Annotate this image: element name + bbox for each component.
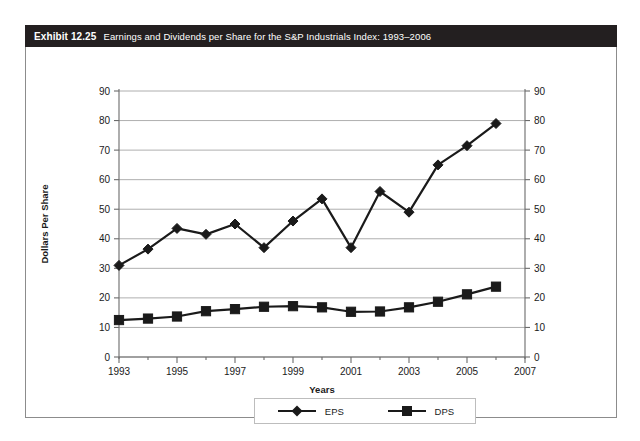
data-point-dps (317, 303, 326, 312)
svg-text:10: 10 (99, 322, 111, 333)
data-point-dps (143, 314, 152, 323)
svg-text:2005: 2005 (456, 366, 479, 377)
svg-text:70: 70 (534, 145, 546, 156)
svg-text:30: 30 (534, 263, 546, 274)
svg-text:60: 60 (534, 174, 546, 185)
data-point-dps (288, 302, 297, 311)
legend-entry-eps: EPS (276, 404, 344, 418)
svg-text:1993: 1993 (108, 366, 131, 377)
svg-text:70: 70 (99, 145, 111, 156)
data-point-dps (491, 282, 500, 291)
svg-text:1997: 1997 (224, 366, 247, 377)
exhibit-title-bar: Exhibit 12.25 Earnings and Dividends per… (25, 25, 617, 47)
legend-marker-square-icon (386, 404, 428, 418)
chart-plot-area: 0102030405060708090010203040506070809019… (26, 47, 618, 418)
svg-text:1995: 1995 (166, 366, 189, 377)
series-line-eps (119, 124, 496, 266)
data-point-dps (462, 290, 471, 299)
svg-text:1999: 1999 (282, 366, 305, 377)
data-point-dps (201, 307, 210, 316)
svg-text:50: 50 (99, 204, 111, 215)
svg-text:10: 10 (534, 322, 546, 333)
legend-entry-dps: DPS (386, 404, 455, 418)
line-chart: 0102030405060708090010203040506070809019… (26, 47, 618, 418)
chart-frame: 0102030405060708090010203040506070809019… (25, 47, 617, 418)
data-point-eps (201, 229, 211, 239)
svg-text:2007: 2007 (514, 366, 537, 377)
svg-text:20: 20 (99, 292, 111, 303)
data-point-dps (375, 307, 384, 316)
legend-marker-diamond-icon (276, 404, 318, 418)
exhibit-container: Exhibit 12.25 Earnings and Dividends per… (25, 25, 617, 418)
svg-text:60: 60 (99, 174, 111, 185)
svg-text:30: 30 (99, 263, 111, 274)
data-point-eps (346, 243, 356, 253)
data-point-dps (346, 307, 355, 316)
y-axis-title: Dollars Per Share (39, 184, 50, 263)
svg-text:20: 20 (534, 292, 546, 303)
x-axis-title: Years (309, 384, 334, 395)
legend-label-dps: DPS (435, 406, 455, 417)
svg-text:50: 50 (534, 204, 546, 215)
data-point-dps (114, 315, 123, 324)
chart-legend: EPS DPS (254, 398, 476, 424)
svg-text:90: 90 (534, 86, 546, 97)
legend-label-eps: EPS (325, 406, 344, 417)
svg-text:2003: 2003 (398, 366, 421, 377)
data-point-dps (172, 312, 181, 321)
data-point-dps (259, 302, 268, 311)
svg-text:90: 90 (99, 86, 111, 97)
svg-text:80: 80 (99, 115, 111, 126)
svg-text:0: 0 (104, 352, 110, 363)
svg-text:0: 0 (534, 352, 540, 363)
data-point-dps (433, 297, 442, 306)
data-point-dps (404, 303, 413, 312)
svg-text:80: 80 (534, 115, 546, 126)
svg-text:40: 40 (99, 233, 111, 244)
svg-text:40: 40 (534, 233, 546, 244)
exhibit-number: Exhibit 12.25 (34, 31, 96, 42)
exhibit-caption: Earnings and Dividends per Share for the… (103, 31, 431, 42)
data-point-dps (230, 305, 239, 314)
svg-text:2001: 2001 (340, 366, 363, 377)
